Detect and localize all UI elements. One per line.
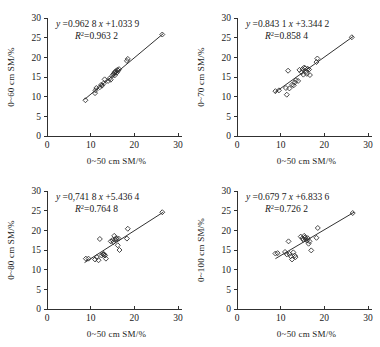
y-tick-label: 0	[226, 304, 231, 314]
r-squared-label: R2=0.764 8	[74, 203, 118, 215]
y-tick-label: 15	[32, 72, 42, 82]
data-point	[125, 226, 130, 231]
x-tick-label: 30	[363, 140, 373, 150]
y-tick-label: 10	[32, 92, 42, 102]
y-tick-label: 5	[36, 112, 41, 122]
x-axis-title: 0~50 cm SM/%	[87, 156, 147, 166]
scatter-panel-a: 05101520253001020300~50 cm SM/%0~60 cm S…	[0, 0, 190, 173]
y-tick-label: 30	[32, 13, 42, 23]
x-tick-label: 0	[45, 140, 50, 150]
data-point	[286, 68, 291, 73]
y-tick-label: 0	[36, 304, 41, 314]
y-tick-label: 0	[36, 131, 41, 141]
scatter-panel-d: 05101520253001020300~50 cm SM/%0~100 cm …	[190, 173, 380, 346]
y-tick-label: 25	[32, 206, 42, 216]
x-tick-label: 0	[235, 313, 240, 323]
y-tick-label: 5	[36, 285, 41, 295]
x-tick-label: 0	[45, 313, 50, 323]
scatter-panel-b: 05101520253001020300~50 cm SM/%0~70 cm S…	[190, 0, 380, 173]
x-tick-label: 10	[276, 313, 286, 323]
x-tick-label: 0	[235, 140, 240, 150]
y-tick-label: 30	[222, 13, 232, 23]
regression-equation: y =0.962 8 x +1.033 9	[55, 19, 140, 29]
x-tick-label: 30	[173, 313, 183, 323]
data-point	[314, 235, 319, 240]
x-tick-label: 10	[276, 140, 286, 150]
r-squared-label: R2=0.963 2	[74, 30, 118, 42]
figure-panel-grid: 05101520253001020300~50 cm SM/%0~60 cm S…	[0, 0, 380, 347]
data-point	[284, 92, 289, 97]
y-tick-label: 15	[222, 72, 232, 82]
scatter-panel-c: 05101520253001020300~50 cm SM/%0~80 cm S…	[0, 173, 190, 346]
r-squared-label: R2=0.858 4	[264, 30, 308, 42]
y-tick-label: 25	[222, 33, 232, 43]
x-tick-label: 30	[363, 313, 373, 323]
data-point	[306, 241, 311, 246]
regression-equation: y =0.843 1 x +3.344 2	[245, 19, 330, 29]
y-tick-label: 30	[32, 186, 42, 196]
x-tick-label: 20	[130, 313, 140, 323]
x-axis-title: 0~50 cm SM/%	[277, 329, 337, 339]
x-tick-label: 10	[86, 140, 96, 150]
y-tick-label: 10	[222, 92, 232, 102]
y-tick-label: 30	[222, 186, 232, 196]
y-axis-title: 0~60 cm SM/%	[6, 47, 16, 107]
regression-line	[85, 34, 164, 100]
data-point	[315, 225, 320, 230]
data-point	[309, 248, 314, 253]
x-axis-title: 0~50 cm SM/%	[277, 156, 337, 166]
data-point-group	[83, 210, 164, 263]
y-tick-label: 0	[226, 131, 231, 141]
y-tick-label: 10	[32, 265, 42, 275]
y-axis-title: 0~80 cm SM/%	[6, 220, 16, 280]
data-point	[286, 239, 291, 244]
y-tick-label: 20	[222, 226, 232, 236]
y-tick-label: 25	[222, 206, 232, 216]
x-tick-label: 20	[130, 140, 140, 150]
y-axis-title: 0~100 cm SM/%	[196, 218, 206, 282]
y-tick-label: 20	[222, 53, 232, 63]
regression-line	[275, 36, 354, 92]
regression-equation: y =0.679 7 x +6.833 6	[245, 192, 330, 202]
y-tick-label: 10	[222, 265, 232, 275]
x-tick-label: 20	[320, 140, 330, 150]
y-tick-label: 15	[222, 245, 232, 255]
y-tick-label: 25	[32, 33, 42, 43]
x-tick-label: 20	[320, 313, 330, 323]
y-tick-label: 20	[32, 226, 42, 236]
x-tick-label: 10	[86, 313, 96, 323]
y-axis-title: 0~70 cm SM/%	[196, 47, 206, 107]
y-tick-label: 5	[226, 112, 231, 122]
data-point	[97, 236, 102, 241]
regression-equation: y =0,741 8 x +5.436 4	[55, 192, 140, 202]
y-tick-label: 5	[226, 285, 231, 295]
y-tick-label: 15	[32, 245, 42, 255]
y-tick-label: 20	[32, 53, 42, 63]
r-squared-label: R2=0.726 2	[264, 203, 308, 215]
x-tick-label: 30	[173, 140, 183, 150]
x-axis-title: 0~50 cm SM/%	[87, 329, 147, 339]
